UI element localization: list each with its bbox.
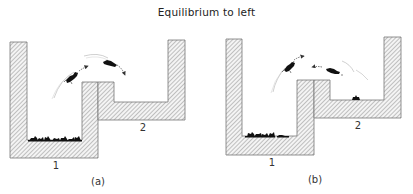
container-2-a bbox=[98, 40, 185, 120]
container-1-label-b: 1 bbox=[269, 157, 275, 168]
panel-caption-a: (a) bbox=[91, 176, 105, 187]
mouse-container-2-b bbox=[352, 95, 360, 100]
container-1-label-a: 1 bbox=[53, 160, 59, 171]
mice-group-container-1-b bbox=[245, 132, 289, 138]
panel-caption-b: (b) bbox=[308, 174, 322, 185]
mice-group-container-1-a bbox=[28, 136, 82, 142]
equilibrium-diagram bbox=[0, 0, 413, 194]
container-2-label-b: 2 bbox=[355, 120, 361, 131]
jumping-mouse-b2 bbox=[312, 61, 368, 80]
container-2-b bbox=[314, 37, 401, 118]
panel-a bbox=[10, 40, 185, 158]
container-2-label-a: 2 bbox=[140, 122, 146, 133]
jumping-mouse-a2 bbox=[84, 54, 125, 75]
panel-b bbox=[226, 37, 401, 155]
